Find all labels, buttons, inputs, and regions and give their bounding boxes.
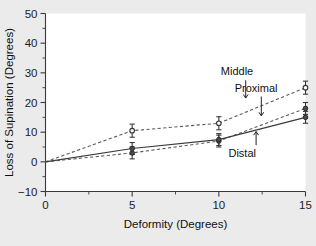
y-axis-tick-label: 20: [25, 97, 38, 109]
y-axis-title: Loss of Supination (Degrees): [3, 28, 15, 177]
chart-figure: MiddleProximalDistal 50403020100−1005101…: [0, 0, 316, 246]
data-point-marker: [303, 85, 308, 90]
loss-of-supination-vs-deformity-chart: MiddleProximalDistal 50403020100−1005101…: [0, 0, 316, 246]
x-axis-tick-label: 15: [299, 199, 312, 211]
data-point-marker: [217, 121, 222, 126]
series-label-distal: Distal: [228, 147, 256, 159]
data-point-marker: [303, 115, 308, 120]
data-point-marker: [217, 137, 222, 142]
x-axis-tick-label: 0: [42, 199, 48, 211]
data-point-marker: [130, 146, 135, 151]
y-axis-tick-label: 30: [25, 67, 38, 79]
data-point-marker: [130, 151, 135, 156]
plot-area-background: [46, 14, 306, 192]
x-axis-tick-label: 10: [212, 199, 225, 211]
y-axis-tick-label: 40: [25, 37, 38, 49]
y-axis-tick-label: 10: [25, 126, 38, 138]
data-point-marker: [303, 106, 308, 111]
data-point-marker: [130, 128, 135, 133]
y-axis-tick-label: 50: [25, 8, 38, 20]
y-axis-tick-label: 0: [31, 156, 37, 168]
series-label-proximal: Proximal: [235, 82, 278, 94]
y-axis-tick-label: −10: [18, 186, 38, 198]
x-axis-title: Deformity (Degrees): [124, 218, 228, 230]
x-axis-tick-label: 5: [129, 199, 135, 211]
series-label-middle: Middle: [221, 65, 253, 77]
